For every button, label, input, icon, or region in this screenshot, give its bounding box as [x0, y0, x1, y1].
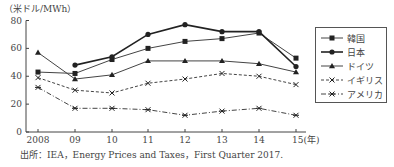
x-tick-label: 10: [106, 135, 118, 145]
legend-label: ドイツ: [347, 60, 374, 73]
x-tick-label: 11: [142, 135, 153, 145]
y-tick-label: 60: [11, 43, 23, 53]
y-tick-label: 0: [16, 127, 22, 137]
source-note: 出所：IEA，Energy Prices and Taxes，First Qua…: [20, 148, 283, 161]
x-tick-label: 14: [253, 135, 265, 145]
legend-label: イギリス: [347, 74, 383, 87]
legend-item: イギリス: [320, 73, 383, 87]
x-tick-label: 15(年): [292, 134, 319, 145]
circle-marker-icon: [320, 47, 344, 57]
y-tick-label: 80: [11, 16, 23, 26]
chart-legend: 韓国日本ドイツイギリスアメリカ: [315, 27, 387, 103]
legend-item: 日本: [320, 45, 365, 59]
series-line: [36, 31, 299, 76]
y-tick-label: 20: [11, 99, 23, 109]
x-marker-icon: [320, 75, 344, 85]
x-tick-label: 09: [69, 135, 81, 145]
x-tick-label: 13: [216, 135, 228, 145]
y-tick-label: 40: [11, 71, 23, 81]
legend-label: 日本: [347, 46, 365, 59]
x-tick-label: 12: [179, 135, 190, 145]
x-tick-label: 2008: [27, 135, 50, 145]
triangle-marker-icon: [320, 61, 344, 71]
legend-item: ドイツ: [320, 59, 374, 73]
legend-label: 韓国: [347, 32, 365, 45]
legend-label: アメリカ: [347, 88, 383, 101]
legend-item: 韓国: [320, 31, 365, 45]
asterisk-marker-icon: [320, 89, 344, 99]
square-marker-icon: [320, 33, 344, 43]
legend-item: アメリカ: [320, 87, 383, 101]
